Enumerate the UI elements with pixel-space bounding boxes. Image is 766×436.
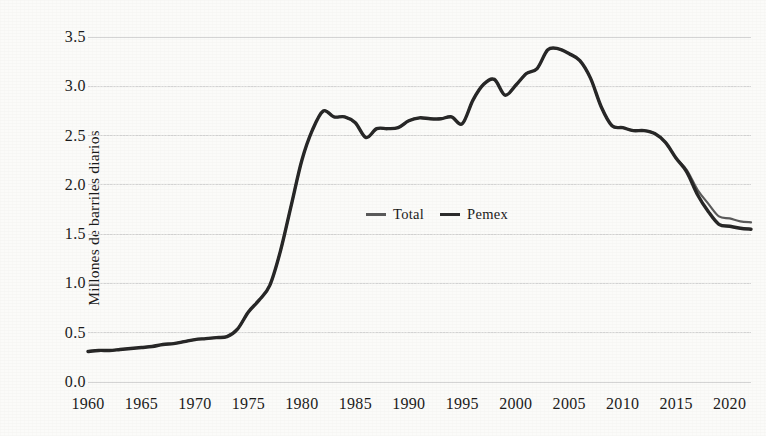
legend-swatch-total-icon — [366, 213, 386, 215]
series-line-total — [88, 48, 751, 352]
legend-entry-total: Total — [366, 206, 424, 223]
legend-label-total: Total — [393, 206, 424, 223]
legend-swatch-pemex-icon — [440, 213, 460, 216]
chart-legend: Total Pemex — [366, 206, 508, 223]
chart-figure: Millones de barriles diarios 0.00.51.01.… — [0, 0, 766, 436]
legend-label-pemex: Pemex — [467, 206, 508, 223]
legend-entry-pemex: Pemex — [440, 206, 508, 223]
series-line-pemex — [88, 48, 751, 352]
